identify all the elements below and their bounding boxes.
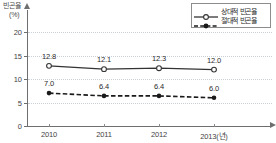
- data-point-label: 12.0: [207, 56, 221, 65]
- x-axis-tick-label: 2012: [151, 130, 167, 139]
- data-point-marker: [212, 96, 217, 101]
- y-axis-unit-label: (%): [9, 11, 19, 19]
- data-point-label: 6.4: [154, 82, 164, 91]
- legend-item-absolute: 절대적 빈곤율: [194, 16, 267, 24]
- data-point-label: 12.8: [42, 52, 56, 61]
- series-relative: [47, 63, 217, 72]
- y-axis-tick-label: 10: [14, 75, 22, 84]
- legend-swatch-absolute: [194, 16, 218, 24]
- data-point-label: 6.0: [209, 84, 219, 93]
- data-point-marker: [102, 67, 107, 72]
- series-absolute: [47, 91, 217, 100]
- x-axis-tick-label: 2013(년): [200, 130, 227, 141]
- data-point-marker: [157, 66, 162, 71]
- data-point-label: 12.1: [97, 55, 111, 64]
- y-axis-title: 빈곤율: [3, 2, 20, 10]
- series-line: [49, 93, 214, 98]
- data-point-label: 12.3: [152, 54, 166, 63]
- y-axis-tick-label: 0: [18, 122, 22, 131]
- data-point-marker: [47, 63, 52, 68]
- y-axis-tick-label: 15: [14, 51, 22, 60]
- y-axis-tick-label: 20: [14, 28, 22, 37]
- y-axis-arrow-icon: [24, 3, 30, 9]
- legend-item-relative: 상대적 빈곤율: [194, 7, 267, 15]
- data-point-label: 6.4: [99, 82, 109, 91]
- poverty-rate-line-chart: 빈곤율 (%) 05101520 2010201120122013(년) 12.…: [0, 0, 276, 143]
- x-axis-tick-label: 2010: [41, 130, 57, 139]
- data-point-label: 7.0: [44, 79, 54, 88]
- data-point-marker: [212, 67, 217, 72]
- data-point-marker: [102, 94, 107, 99]
- y-axis-tick-label: 5: [18, 98, 22, 107]
- x-axis-tick-label: 2011: [96, 130, 111, 139]
- legend-label-absolute: 절대적 빈곤율: [221, 15, 257, 25]
- series-line: [49, 66, 214, 70]
- legend: 상대적 빈곤율 절대적 빈곤율: [191, 3, 271, 28]
- legend-swatch-relative: [194, 7, 218, 15]
- data-point-marker: [47, 91, 52, 96]
- data-point-marker: [157, 94, 162, 99]
